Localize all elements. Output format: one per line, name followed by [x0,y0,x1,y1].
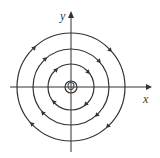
phase-portrait-diagram: y x O [0,0,160,158]
origin-label: O [67,82,75,92]
y-axis-arrow-icon [68,11,74,18]
y-axis-label: y [60,10,65,22]
x-axis-arrow-icon [146,84,152,90]
x-axis-label: x [143,93,148,105]
diagram-canvas [0,0,160,158]
